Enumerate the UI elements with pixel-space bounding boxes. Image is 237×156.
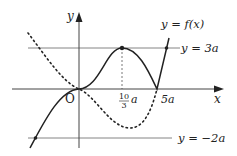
peak-point bbox=[120, 46, 124, 50]
tick-fraction-denominator: 3 bbox=[121, 101, 126, 110]
line-label-minus-2a: y = −2a bbox=[177, 131, 225, 145]
line-label-3a: y = 3a bbox=[180, 41, 219, 55]
tick-fraction-suffix: a bbox=[131, 93, 138, 106]
x-axis-label: x bbox=[214, 92, 221, 106]
origin-label: O bbox=[65, 92, 75, 106]
y-axis-arrow-icon bbox=[76, 12, 83, 22]
y-axis-label: y bbox=[66, 9, 74, 23]
intersection-3a-point bbox=[165, 46, 169, 50]
curve-label: y = f(x) bbox=[160, 17, 204, 31]
tick-fraction-numerator: 10 bbox=[119, 92, 129, 101]
solid-curve-f bbox=[30, 38, 169, 148]
function-graph: y x O y = f(x) y = 3a y = −2a 10 3 a 5a bbox=[0, 0, 237, 156]
dotted-curve bbox=[28, 33, 157, 128]
tick-5a: 5a bbox=[161, 93, 175, 106]
intersection-minus-2a-point bbox=[34, 136, 38, 140]
